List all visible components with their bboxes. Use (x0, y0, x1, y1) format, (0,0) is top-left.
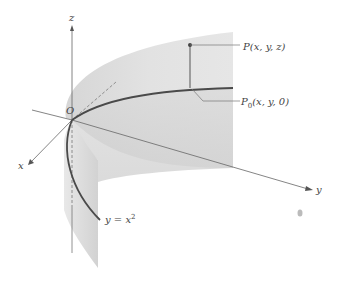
point-p-label: P(x, y, z) (242, 41, 286, 52)
curve-label: y = x2 (104, 213, 136, 225)
smudge-artifact (298, 210, 303, 217)
curve-label-sup: 2 (131, 213, 135, 221)
origin-label: O (66, 105, 74, 116)
y-axis-arrow-icon (305, 186, 313, 191)
diagram-canvas: z y x O P(x, y, z) P0(x, y, 0) y = x2 (0, 0, 339, 282)
z-axis-label: z (68, 12, 75, 23)
y-axis-label: y (315, 184, 322, 195)
x-axis-label: x (18, 160, 24, 171)
p0-rest: (x, y, 0) (252, 96, 289, 107)
curve-label-base: y = x (104, 214, 131, 225)
point-p0-label: P0(x, y, 0) (240, 96, 289, 110)
z-axis-arrow-icon (70, 25, 74, 31)
